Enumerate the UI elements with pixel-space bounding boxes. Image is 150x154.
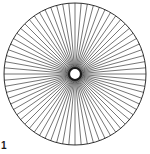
center-hole [69, 68, 81, 80]
radial-star-diagram [0, 0, 150, 154]
spoke-line [25, 24, 72, 71]
figure-label: 1 [1, 140, 7, 152]
spoke-line [25, 78, 72, 125]
spoke-line [79, 78, 126, 125]
spoke-line [79, 24, 126, 71]
